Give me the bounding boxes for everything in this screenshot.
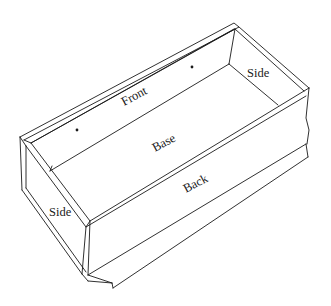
nail-hole-left-marker — [76, 129, 79, 132]
label-front: Front — [119, 83, 150, 108]
box-diagram: Front Base Back Side Side — [0, 0, 331, 306]
back-panel — [26, 88, 309, 288]
label-base: Base — [150, 131, 178, 155]
side-panel-right — [229, 27, 309, 144]
label-side-left: Side — [49, 205, 72, 219]
label-back: Back — [181, 171, 211, 196]
label-side-right: Side — [247, 66, 270, 80]
nail-hole-right-marker — [191, 66, 194, 69]
